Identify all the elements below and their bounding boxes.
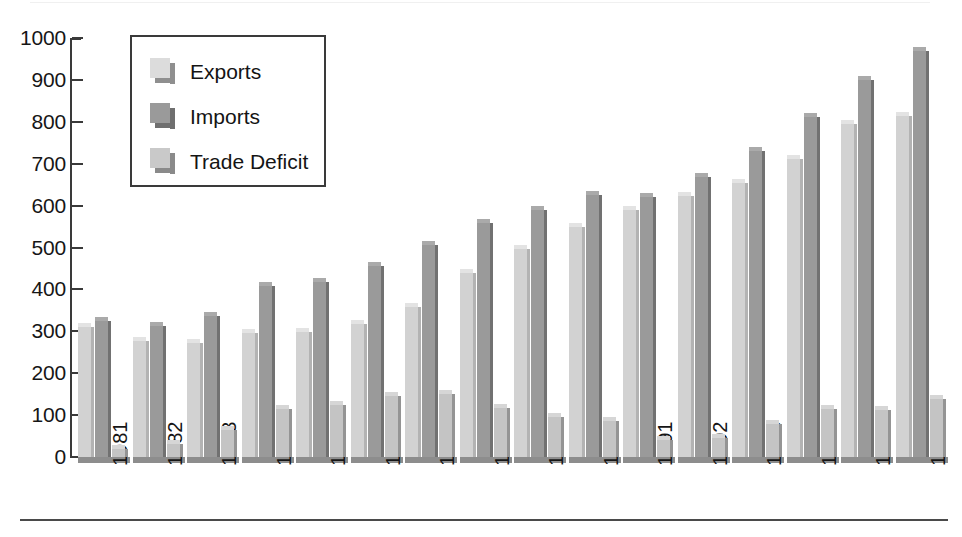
bar-group xyxy=(678,37,730,457)
bar-group xyxy=(460,37,512,457)
legend-swatch-exports-icon xyxy=(150,58,176,84)
x-axis-label-1994: 1994 xyxy=(787,466,839,526)
bottom-rule xyxy=(20,519,948,521)
bar-exports xyxy=(296,328,312,457)
legend-swatch-trade-deficit-icon xyxy=(150,148,176,174)
x-axis-label-1987: 1987 xyxy=(405,466,457,526)
bar-trade-deficit xyxy=(221,426,237,457)
bar-imports xyxy=(95,317,111,457)
bar-exports xyxy=(514,245,530,457)
bar-trade-deficit xyxy=(330,401,346,457)
legend-item-exports: Exports xyxy=(150,54,261,88)
bar-trade-deficit xyxy=(112,445,128,457)
bar-imports xyxy=(150,322,166,457)
bar-exports xyxy=(460,269,476,457)
x-axis-label-1995: 1995 xyxy=(841,466,893,526)
x-axis-label-1992: 1992 xyxy=(678,466,730,526)
bar-exports xyxy=(569,223,585,457)
bar-trade-deficit xyxy=(821,405,837,457)
x-axis-label-1984: 1984 xyxy=(242,466,294,526)
bar-trade-deficit xyxy=(603,417,619,457)
bar-imports xyxy=(204,312,220,457)
legend-label-imports: Imports xyxy=(190,106,260,127)
bar-trade-deficit xyxy=(766,420,782,457)
bar-exports xyxy=(78,323,94,457)
bar-trade-deficit xyxy=(439,390,455,457)
x-axis-label-1996: 1996 xyxy=(896,466,948,526)
bar-exports xyxy=(405,303,421,457)
bar-exports xyxy=(732,179,748,457)
bar-trade-deficit xyxy=(385,392,401,457)
bar-imports xyxy=(422,241,438,457)
bar-group xyxy=(514,37,566,457)
bar-imports xyxy=(640,193,656,457)
bar-imports xyxy=(368,262,384,457)
bar-imports xyxy=(586,191,602,457)
bar-imports xyxy=(913,47,929,457)
bar-imports xyxy=(477,219,493,457)
bar-exports xyxy=(841,120,857,457)
bar-trade-deficit xyxy=(930,395,946,457)
bar-group xyxy=(841,37,893,457)
bar-trade-deficit xyxy=(494,404,510,457)
x-axis-label-1993: 1993 xyxy=(732,466,784,526)
bar-imports xyxy=(531,206,547,457)
bar-imports xyxy=(313,278,329,457)
x-axis-label-1983: 1983 xyxy=(187,466,239,526)
bar-exports xyxy=(678,192,694,457)
bar-group xyxy=(569,37,621,457)
bar-exports xyxy=(896,112,912,457)
bar-trade-deficit xyxy=(548,413,564,457)
x-axis-label-1989: 1989 xyxy=(514,466,566,526)
bar-group xyxy=(732,37,784,457)
bar-trade-deficit xyxy=(276,405,292,457)
legend-item-trade-deficit: Trade Deficit xyxy=(150,144,308,178)
legend-label-trade-deficit: Trade Deficit xyxy=(190,151,308,172)
trade-balance-bar-chart: 01002003004005006007008009001000 1981198… xyxy=(0,0,962,537)
x-axis-label-1985: 1985 xyxy=(296,466,348,526)
bar-trade-deficit xyxy=(657,436,673,457)
bar-exports xyxy=(133,337,149,457)
x-axis-label-1988: 1988 xyxy=(460,466,512,526)
bar-exports xyxy=(187,339,203,457)
legend-label-exports: Exports xyxy=(190,61,261,82)
bar-group xyxy=(78,37,130,457)
bar-group xyxy=(896,37,948,457)
x-axis-label-1991: 1991 xyxy=(623,466,675,526)
bar-exports xyxy=(351,320,367,457)
bar-exports xyxy=(787,155,803,457)
bar-exports xyxy=(623,206,639,457)
bar-group xyxy=(405,37,457,457)
bar-exports xyxy=(242,329,258,457)
bar-imports xyxy=(858,76,874,457)
bar-imports xyxy=(749,147,765,457)
bar-trade-deficit xyxy=(875,406,891,457)
x-axis-label-1982: 1982 xyxy=(133,466,185,526)
bar-imports xyxy=(804,113,820,457)
legend-item-imports: Imports xyxy=(150,99,260,133)
bar-imports xyxy=(259,282,275,457)
legend-swatch-imports-icon xyxy=(150,103,176,129)
chart-legend: Exports Imports Trade Deficit xyxy=(130,35,326,187)
bar-trade-deficit xyxy=(712,434,728,457)
x-axis-label-1990: 1990 xyxy=(569,466,621,526)
bar-imports xyxy=(695,173,711,457)
bar-group xyxy=(623,37,675,457)
x-axis-label-1981: 1981 xyxy=(78,466,130,526)
bar-group xyxy=(351,37,403,457)
x-axis-label-1986: 1986 xyxy=(351,466,403,526)
bar-group xyxy=(787,37,839,457)
bar-trade-deficit xyxy=(167,440,183,457)
